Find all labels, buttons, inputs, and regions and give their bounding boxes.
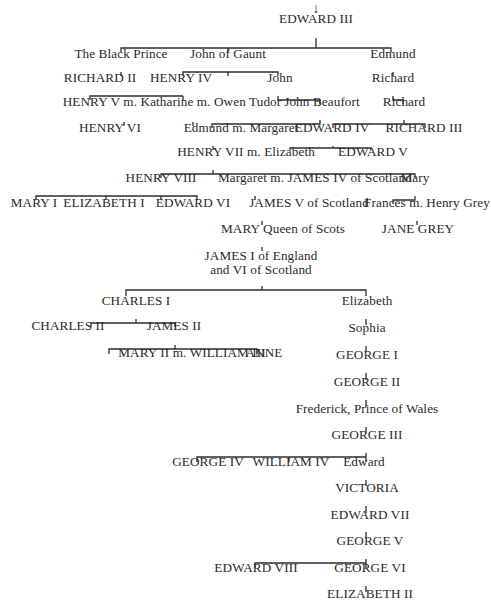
tree-node-margaret: Margaret m. JAMES IV of Scotland <box>218 171 412 185</box>
tree-node-henry4: HENRY IV <box>150 71 212 85</box>
tree-node-richard3: RICHARD III <box>386 121 463 135</box>
tree-node-edward3: EDWARD III <box>279 12 353 26</box>
tree-node-richard_a: Richard <box>372 71 414 85</box>
tree-node-edmund: Edmund <box>370 47 415 61</box>
tree-node-edward: Edward <box>343 455 385 469</box>
tree-node-richard_b: Richard <box>383 95 425 109</box>
tree-node-mary: Mary <box>401 171 430 185</box>
tree-node-george6: GEORGE VI <box>334 561 405 575</box>
tree-node-george4: GEORGE IV <box>172 455 244 469</box>
tree-node-edward7: EDWARD VII <box>331 508 410 522</box>
tree-node-elizabeth2: ELIZABETH II <box>327 587 413 601</box>
tree-node-james5: JAMES V of Scotland <box>249 196 369 210</box>
tree-node-beaufort: John Beaufort <box>284 95 360 109</box>
tree-node-maryqos: MARY Queen of Scots <box>221 222 345 236</box>
tree-node-henry6: HENRY VI <box>79 121 141 135</box>
tree-connector-lines <box>0 0 491 611</box>
tree-node-henry5: HENRY V m. Katharine m. Owen Tudor <box>63 95 282 109</box>
tree-node-edward8: EDWARD VIII <box>214 561 297 575</box>
tree-node-frederick: Frederick, Prince of Wales <box>296 402 439 416</box>
tree-node-frances: Frances m. Henry Grey <box>364 196 490 210</box>
tree-node-sophia: Sophia <box>348 321 385 335</box>
tree-node-william4: WILLIAM IV <box>253 455 330 469</box>
tree-node-blackprince: The Black Prince <box>74 47 167 61</box>
tree-node-henry8: HENRY VIII <box>126 171 197 185</box>
tree-node-elizabeth1: ELIZABETH I <box>63 196 144 210</box>
tree-node-mary2: MARY II m. WILLIAM III <box>118 346 266 360</box>
tree-node-gaunt: John of Gaunt <box>190 47 266 61</box>
tree-node-anne: ANNE <box>245 346 282 360</box>
tree-node-edmund_m: Edmund m. Margaret <box>184 121 299 135</box>
tree-node-victoria: VICTORIA <box>335 481 399 495</box>
tree-node-george3: GEORGE III <box>332 428 403 442</box>
tree-node-mary1: MARY I <box>11 196 58 210</box>
tree-node-elizabeth: Elizabeth <box>342 294 393 308</box>
tree-node-janegrey: JANE GREY <box>382 222 454 236</box>
tree-node-edward4: EDWARD IV <box>295 121 370 135</box>
tree-node-henry7: HENRY VII m. Elizabeth <box>177 145 315 159</box>
tree-node-george2: GEORGE II <box>334 375 400 389</box>
tree-node-george5: GEORGE V <box>337 534 404 548</box>
family-tree-diagram: ↓ EDWARD IIIThe Black PrinceJohn of Gaun… <box>0 0 491 611</box>
tree-node-edward5: EDWARD V <box>338 145 408 159</box>
tree-node-charles1: CHARLES I <box>102 294 171 308</box>
tree-node-charles2: CHARLES II <box>31 319 104 333</box>
tree-node-edward6: EDWARD VI <box>156 196 230 210</box>
tree-node-james1: JAMES I of Englandand VI of Scotland <box>205 249 318 277</box>
tree-node-john: John <box>267 71 292 85</box>
tree-node-james2: JAMES II <box>147 319 202 333</box>
tree-node-george1: GEORGE I <box>336 348 398 362</box>
tree-node-richard2: RICHARD II <box>64 71 136 85</box>
